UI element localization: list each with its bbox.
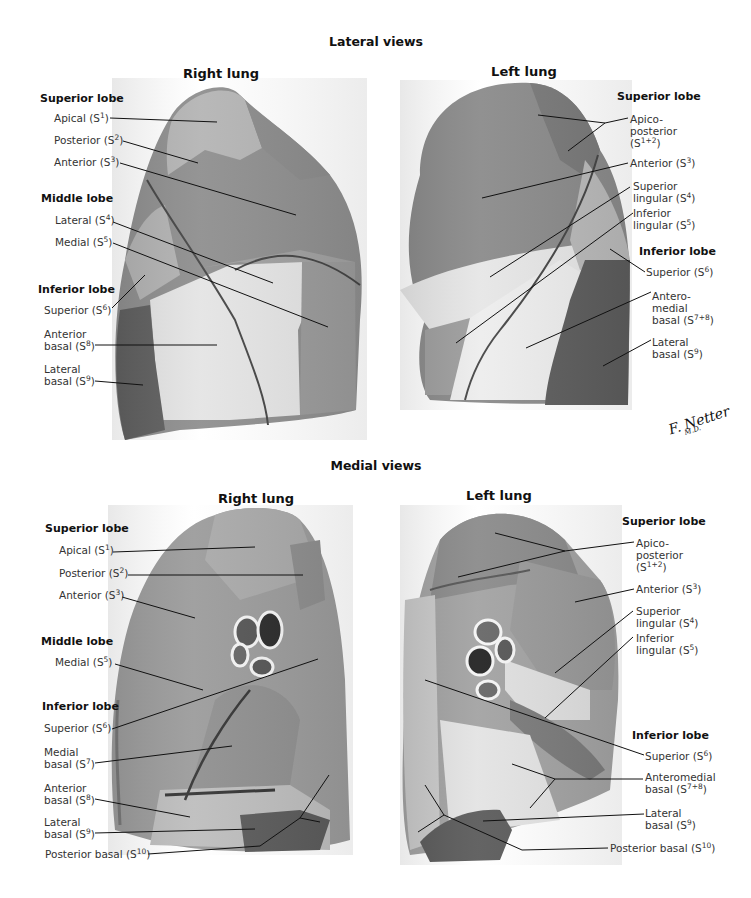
lateral-right-superior-lobe: Superior lobe: [40, 92, 124, 105]
label-medial-right-medial: Medial (S5): [55, 656, 112, 668]
label-lateral-left-superior: Superior (S6): [646, 266, 713, 278]
label-lateral-right-lateral-basal: Lateralbasal (S9): [44, 363, 95, 387]
lateral-right-middle-lobe: Middle lobe: [41, 192, 113, 205]
label-medial-right-posterior-basal: Posterior basal (S10): [45, 848, 150, 860]
medial-left-inferior-lobe: Inferior lobe: [632, 729, 709, 742]
label-medial-left-apicoposterior: Apico-posterior(S1+2): [636, 537, 683, 573]
lateral-right-lung-title: Right lung: [183, 66, 259, 81]
lateral-right-lung: [112, 78, 367, 440]
label-medial-right-anterior: Anterior (S3): [59, 589, 124, 601]
lateral-right-inferior-lobe: Inferior lobe: [38, 283, 115, 296]
medial-right-lung-title: Right lung: [218, 491, 294, 506]
medial-left-superior-lobe: Superior lobe: [622, 515, 706, 528]
medial-views-title: Medial views: [330, 458, 421, 473]
label-lateral-left-apicoposterior: Apico-posterior(S1+2): [630, 113, 677, 149]
lateral-views-title: Lateral views: [329, 34, 423, 49]
medial-right-inferior-lobe: Inferior lobe: [42, 700, 119, 713]
lateral-left-superior-lobe: Superior lobe: [617, 90, 701, 103]
label-lateral-right-lateral: Lateral (S4): [55, 214, 115, 226]
label-medial-right-apical: Apical (S1): [59, 544, 114, 556]
label-lateral-right-medial: Medial (S5): [55, 236, 112, 248]
medial-right-superior-lobe: Superior lobe: [45, 522, 129, 535]
label-lateral-left-superior-lingular: Superiorlingular (S4): [633, 180, 695, 204]
label-lateral-left-anteromedial-basal: Antero-medialbasal (S7+8): [652, 290, 714, 326]
medial-left-lung: [400, 505, 622, 865]
label-medial-left-anteromedial-basal: Anteromedialbasal (S7+8): [645, 771, 716, 795]
label-lateral-left-lateral-basal: Lateralbasal (S9): [652, 336, 703, 360]
label-medial-left-anterior: Anterior (S3): [636, 583, 701, 595]
medial-right-middle-lobe: Middle lobe: [41, 635, 113, 648]
label-medial-left-superior: Superior (S6): [645, 750, 712, 762]
label-lateral-left-inferior-lingular: Inferiorlingular (S5): [633, 207, 695, 231]
label-medial-left-lateral-basal: Lateralbasal (S9): [645, 807, 696, 831]
medial-left-lung-title: Left lung: [466, 488, 532, 503]
label-lateral-right-apical: Apical (S1): [54, 112, 109, 124]
label-medial-left-superior-lingular: Superiorlingular (S4): [636, 605, 698, 629]
label-medial-right-posterior: Posterior (S2): [59, 567, 128, 579]
label-lateral-right-superior: Superior (S6): [44, 304, 111, 316]
label-medial-right-anterior-basal: Anteriorbasal (S8): [44, 782, 95, 806]
label-lateral-right-anterior-basal: Anteriorbasal (S8): [44, 328, 95, 352]
lateral-left-lung-title: Left lung: [491, 64, 557, 79]
label-lateral-right-posterior: Posterior (S2): [54, 134, 123, 146]
label-medial-left-inferior-lingular: Inferiorlingular (S5): [636, 632, 698, 656]
medial-right-lung: [108, 505, 353, 855]
label-medial-right-superior: Superior (S6): [44, 722, 111, 734]
label-medial-left-posterior-basal: Posterior basal (S10): [610, 842, 715, 854]
label-medial-right-medial-basal: Medialbasal (S7): [44, 746, 95, 770]
label-lateral-right-anterior: Anterior (S3): [54, 156, 119, 168]
label-lateral-left-anterior: Anterior (S3): [630, 157, 695, 169]
label-medial-right-lateral-basal: Lateralbasal (S9): [44, 816, 95, 840]
lateral-left-inferior-lobe: Inferior lobe: [639, 245, 716, 258]
